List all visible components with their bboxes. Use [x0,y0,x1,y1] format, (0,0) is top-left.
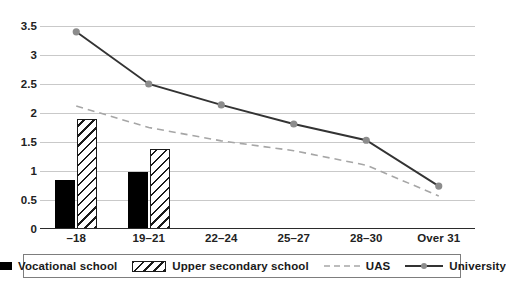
x-axis-line [40,228,475,229]
y-axis-labels: 0 0.5 1 1.5 2 2.5 3 3.5 [0,0,37,290]
y-axis-tick: 3 [3,49,37,61]
plot-area [40,26,475,229]
legend-item-university: University [405,260,506,272]
chart-legend: Vocational school Upper secondary school… [23,254,461,278]
y-axis-tick: 2.5 [3,78,37,90]
line-layer [40,26,475,229]
legend-item-label: Vocational school [18,260,117,272]
legend-item-upper-secondary-school: Upper secondary school [132,260,308,272]
x-axis-tick: 25–27 [258,232,331,252]
x-axis-tick: 22–24 [185,232,258,252]
x-axis-tick: –18 [40,232,113,252]
data-point-marker [145,80,152,87]
marker-line-swatch-icon [405,261,443,271]
data-point-marker [218,101,225,108]
y-axis-tick: 1 [3,165,37,177]
data-point-marker [435,182,442,189]
x-axis-tick: 28–30 [330,232,403,252]
y-axis-tick: 0.5 [3,194,37,206]
x-axis-tick: Over 31 [403,232,476,252]
data-point-marker [290,120,297,127]
legend-item-label: Upper secondary school [172,260,308,272]
legend-item-vocational-school: Vocational school [0,260,117,272]
series-line [76,32,439,186]
data-point-marker [73,28,80,35]
legend-item-uas: UAS [324,260,391,272]
dashed-line-swatch-icon [324,261,360,271]
y-axis-tick: 1.5 [3,136,37,148]
y-axis-tick: 0 [3,223,37,235]
hatched-bar-swatch-icon [132,261,166,272]
data-point-marker [363,137,370,144]
legend-item-label: UAS [366,260,391,272]
x-axis-labels: –18 19–21 22–24 25–27 28–30 Over 31 [40,232,475,252]
legend-item-label: University [449,260,506,272]
solid-black-bar-swatch-icon [0,262,12,270]
y-axis-tick: 2 [3,107,37,119]
x-axis-tick: 19–21 [113,232,186,252]
y-axis-tick: 3.5 [3,20,37,32]
